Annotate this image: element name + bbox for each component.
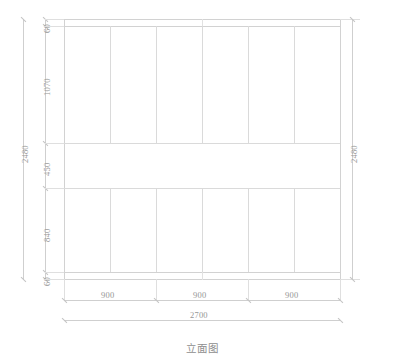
- left-ext-line-bottom-inner: [45, 272, 65, 273]
- left-ext-line-top-inner: [45, 26, 65, 27]
- bottom-ext-line-3: [340, 279, 341, 301]
- bottom-overall-dim-text: 2700: [190, 311, 208, 320]
- upper-panel-divider-4: [248, 26, 249, 143]
- left-chain-label-840: 840: [43, 229, 52, 242]
- left-ext-line-top-outer: [45, 19, 65, 20]
- bottom-chain-label-bay-3: 900: [285, 291, 298, 300]
- upper-panel-divider-1: [110, 26, 111, 143]
- bottom-ext-line-1: [156, 279, 157, 301]
- right-ext-line-bottom: [340, 279, 360, 280]
- lower-panel-divider-4: [248, 188, 249, 272]
- left-ext-line-mid-lower: [45, 188, 65, 189]
- bottom-chain-label-bay-1: 900: [101, 291, 114, 300]
- cabinet-frame-right: [340, 19, 341, 280]
- lower-panel-divider-1: [110, 188, 111, 272]
- left-ext-line-bottom-outer: [45, 279, 65, 280]
- left-overall-dim-text: 2480: [21, 145, 30, 163]
- left-ext-line-mid-upper: [45, 143, 65, 144]
- lower-panel-divider-2: [156, 188, 157, 272]
- right-overall-dim-text: 2480: [350, 145, 359, 163]
- upper-panel-divider-2: [156, 26, 157, 143]
- left-chain-label-1070: 1070: [43, 78, 52, 96]
- open-middle-band: [65, 144, 340, 188]
- drawing-title: 立面图: [186, 340, 219, 355]
- left-chain-label-450: 450: [43, 163, 52, 176]
- lower-panel-divider-5: [294, 188, 295, 272]
- right-ext-line-top: [340, 19, 360, 20]
- upper-panel-divider-3: [202, 26, 203, 143]
- upper-panel-divider-5: [294, 26, 295, 143]
- lower-panel-divider-3: [202, 188, 203, 272]
- bottom-chain-dim-line: [64, 300, 340, 301]
- bottom-chain-label-bay-2: 900: [193, 291, 206, 300]
- bottom-overall-dim-line: [64, 320, 340, 321]
- cad-elevation-drawing: 2480 60 1070 450 840 60: [0, 0, 407, 360]
- bottom-ext-line-0: [64, 279, 65, 301]
- bottom-ext-line-2: [248, 279, 249, 301]
